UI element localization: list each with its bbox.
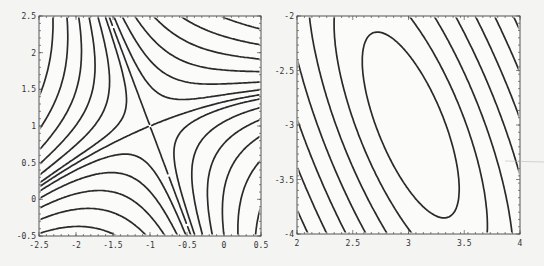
y-tick-label: -3.5 xyxy=(275,176,294,185)
y-tick-label: -4 xyxy=(284,230,294,239)
x-tick-label: 3 xyxy=(406,239,411,248)
y-tick-label: -2.5 xyxy=(275,67,294,76)
x-tick-label: -0.5 xyxy=(177,241,196,250)
x-tick-label: 0 xyxy=(222,241,227,250)
x-tick-label: 3.5 xyxy=(457,239,472,248)
x-tick-label: -2 xyxy=(71,241,81,250)
contour-plots: -2.5-2-1.5-1-0.500.5-0.500.511.522.5 22.… xyxy=(0,0,544,266)
x-tick-label: 2.5 xyxy=(346,239,361,248)
x-tick-label: 4 xyxy=(518,239,523,248)
x-tick-label: -2.5 xyxy=(29,241,48,250)
y-tick-label: 2 xyxy=(31,49,36,58)
y-tick-label: 2.5 xyxy=(22,12,37,21)
x-tick-label: -1 xyxy=(145,241,155,250)
x-tick-label: 0.5 xyxy=(254,241,269,250)
y-tick-label: -3 xyxy=(284,121,294,130)
y-tick-label: 0.5 xyxy=(22,159,37,168)
x-tick-label: -1.5 xyxy=(103,241,122,250)
left-contour-plot: -2.5-2-1.5-1-0.500.5-0.500.511.522.5 xyxy=(17,12,269,250)
y-tick-label: -2 xyxy=(284,12,294,21)
y-tick-label: 1 xyxy=(31,122,36,131)
x-tick-label: 2 xyxy=(295,239,300,248)
y-tick-label: 0 xyxy=(31,195,36,204)
y-tick-label: -0.5 xyxy=(17,232,36,241)
plot-frame xyxy=(39,16,261,236)
right-contour-plot: 22.533.54-4-3.5-3-2.5-2 xyxy=(275,12,523,248)
y-tick-label: 1.5 xyxy=(22,85,37,94)
